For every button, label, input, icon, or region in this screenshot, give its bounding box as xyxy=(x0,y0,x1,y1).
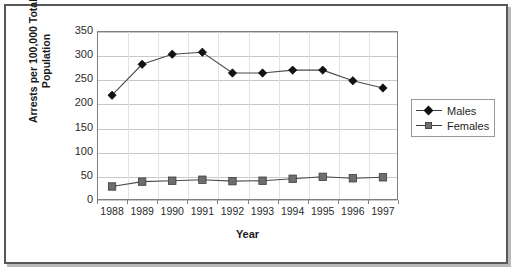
y-axis-tick-label: 350 xyxy=(53,25,93,36)
x-axis-title: Year xyxy=(97,228,398,240)
x-axis-tick-label: 1989 xyxy=(127,205,157,219)
data-point-square xyxy=(319,173,326,180)
chart-plot xyxy=(97,31,398,200)
x-axis-tick-label: 1993 xyxy=(247,205,277,219)
x-axis-tick-label: 1992 xyxy=(217,205,247,219)
x-axis-tick-mark xyxy=(248,200,249,204)
x-axis-tick-label: 1995 xyxy=(308,205,338,219)
y-axis-tick-label: 150 xyxy=(53,122,93,133)
y-axis-tick-label: 300 xyxy=(53,49,93,60)
x-axis-tick-label: 1996 xyxy=(338,205,368,219)
data-point-square xyxy=(138,178,145,185)
data-point-diamond xyxy=(168,50,176,58)
y-axis-tick-label: 200 xyxy=(53,97,93,108)
x-axis-tick-mark xyxy=(127,200,128,204)
x-axis-tick-mark xyxy=(368,200,369,204)
x-axis-tick-mark xyxy=(157,200,158,204)
x-axis-tick-mark xyxy=(308,200,309,204)
data-point-square xyxy=(349,175,356,182)
x-axis-tick-label: 1988 xyxy=(97,205,127,219)
chart-legend: Males Females xyxy=(411,99,495,137)
data-point-square xyxy=(199,176,206,183)
series-line xyxy=(112,52,383,95)
chart-figure: Arrests per 100,000 Total Population 050… xyxy=(0,0,519,276)
legend-item-females[interactable]: Females xyxy=(415,118,489,133)
x-axis-tick-label: 1997 xyxy=(368,205,398,219)
data-point-diamond xyxy=(379,84,387,92)
data-point-square xyxy=(289,175,296,182)
data-point-square xyxy=(108,183,115,190)
legend-item-males[interactable]: Males xyxy=(415,103,489,118)
data-point-square xyxy=(379,174,386,181)
data-point-diamond xyxy=(198,48,206,56)
y-axis-tick-label: 100 xyxy=(53,146,93,157)
x-axis-tick-label: 1991 xyxy=(187,205,217,219)
data-point-square xyxy=(259,177,266,184)
data-point-diamond xyxy=(349,77,357,85)
legend-label: Males xyxy=(443,105,476,117)
data-point-diamond xyxy=(258,69,266,77)
x-axis-tick-mark xyxy=(187,200,188,204)
x-axis-tick-mark xyxy=(398,200,399,204)
y-axis-tick-label: 50 xyxy=(53,170,93,181)
y-axis-tick-labels: 050100150200250300350 xyxy=(50,31,93,200)
x-axis-tick-labels: 1988198919901991199219931994199519961997 xyxy=(97,205,398,219)
x-axis-tick-mark xyxy=(338,200,339,204)
x-axis-tick-label: 1990 xyxy=(157,205,187,219)
y-axis-tick-label: 250 xyxy=(53,73,93,84)
series-line xyxy=(112,177,383,187)
legend-marker-diamond-icon xyxy=(415,104,443,118)
data-point-square xyxy=(229,177,236,184)
legend-label: Females xyxy=(443,120,489,132)
x-axis-tick-mark xyxy=(278,200,279,204)
data-point-diamond xyxy=(319,66,327,74)
legend-marker-square-icon xyxy=(415,119,443,133)
x-axis-tick-label: 1994 xyxy=(278,205,308,219)
data-point-diamond xyxy=(288,66,296,74)
y-axis-tick-label: 0 xyxy=(53,194,93,205)
data-point-square xyxy=(169,177,176,184)
x-axis-tick-mark xyxy=(97,200,98,204)
x-axis-tick-mark xyxy=(217,200,218,204)
data-point-diamond xyxy=(228,69,236,77)
